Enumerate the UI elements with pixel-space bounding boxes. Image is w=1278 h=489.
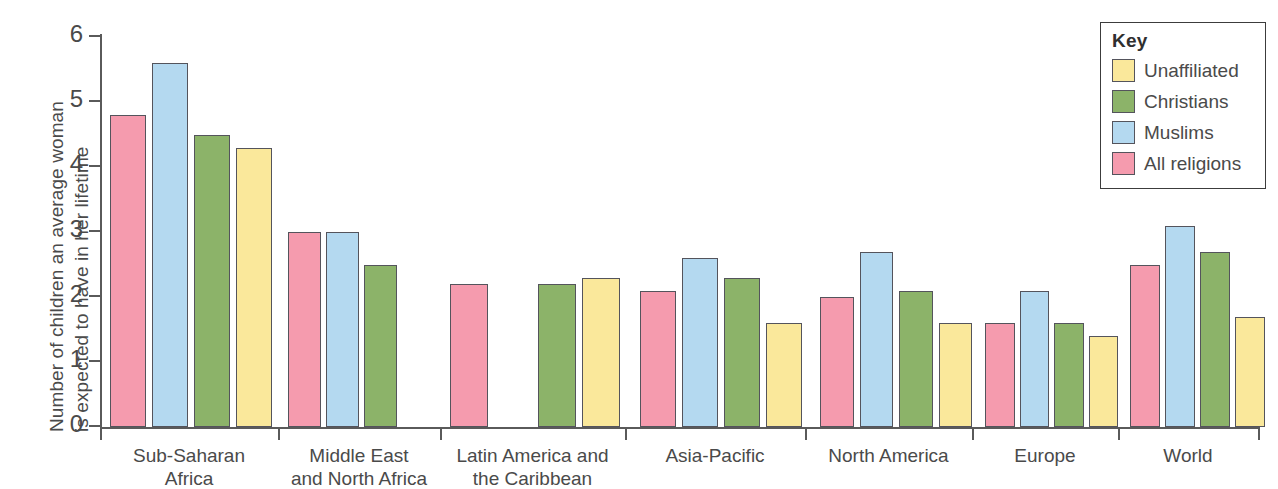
y-axis-tick-label: 1 xyxy=(70,347,83,371)
bar xyxy=(194,135,230,428)
y-axis-tick-label: 3 xyxy=(70,217,83,241)
bar xyxy=(582,278,620,428)
legend-swatch-icon xyxy=(1112,90,1135,113)
legend-item-label: Unaffiliated xyxy=(1144,60,1239,82)
bar xyxy=(724,278,760,428)
legend-item: Unaffiliated xyxy=(1112,55,1255,86)
x-axis-tick xyxy=(625,427,627,440)
legend-item-label: All religions xyxy=(1144,153,1241,175)
bar xyxy=(899,291,933,428)
y-axis-tick-label: 6 xyxy=(70,22,83,46)
x-axis-tick xyxy=(1258,427,1260,440)
x-axis-label: Asia-Pacific xyxy=(625,444,805,467)
legend-swatch-icon xyxy=(1112,152,1135,175)
x-axis-label-line: and North Africa xyxy=(278,467,440,489)
bar xyxy=(682,258,718,427)
bar xyxy=(1165,226,1195,428)
legend-swatch-icon xyxy=(1112,59,1135,82)
bar xyxy=(538,284,576,427)
x-axis-tick xyxy=(100,427,102,440)
y-axis-tick: 3 xyxy=(89,230,100,232)
x-axis-label: World xyxy=(1118,444,1258,467)
x-axis-tick xyxy=(1118,427,1120,440)
x-axis-label: North America xyxy=(805,444,972,467)
x-axis-label-line: Sub-Saharan xyxy=(100,444,278,467)
x-axis-tick xyxy=(972,427,974,440)
legend-item-label: Muslims xyxy=(1144,122,1214,144)
legend-item: All religions xyxy=(1112,148,1255,179)
bar xyxy=(1235,317,1265,428)
legend-swatch-icon xyxy=(1112,121,1135,144)
y-axis-tick: 6 xyxy=(89,35,100,37)
y-axis-tick-label: 5 xyxy=(70,87,83,111)
y-axis-tick: 1 xyxy=(89,360,100,362)
bar xyxy=(1020,291,1050,428)
legend-items: UnaffiliatedChristiansMuslimsAll religio… xyxy=(1112,55,1255,179)
y-axis-title-line1: Number of children an average woman xyxy=(46,101,67,432)
bar xyxy=(640,291,676,428)
bar xyxy=(236,148,272,428)
y-axis-tick-label: 0 xyxy=(70,412,83,436)
x-axis-tick xyxy=(278,427,280,440)
y-axis-tick: 5 xyxy=(89,100,100,102)
x-axis-tick xyxy=(440,427,442,440)
bar xyxy=(326,232,359,427)
bar xyxy=(110,115,146,427)
y-axis-tick-label: 2 xyxy=(70,282,83,306)
bar xyxy=(766,323,802,427)
bar-group xyxy=(450,37,626,427)
y-axis-tick: 2 xyxy=(89,295,100,297)
x-axis-label: Europe xyxy=(972,444,1118,467)
x-axis-line xyxy=(100,427,1260,429)
bar-group xyxy=(640,37,808,427)
x-axis-tick xyxy=(805,427,807,440)
x-axis-label: Sub-SaharanAfrica xyxy=(100,444,278,489)
legend: Key UnaffiliatedChristiansMuslimsAll rel… xyxy=(1100,22,1266,189)
bar-group xyxy=(820,37,978,427)
legend-title: Key xyxy=(1112,30,1255,52)
x-axis-label-line: the Caribbean xyxy=(440,467,625,489)
bar xyxy=(985,323,1015,427)
bar xyxy=(1089,336,1119,427)
bar xyxy=(1200,252,1230,428)
x-axis-label-line: Europe xyxy=(972,444,1118,467)
y-axis-title: Number of children an average woman is e… xyxy=(0,0,62,440)
x-axis-label: Middle Eastand North Africa xyxy=(278,444,440,489)
bar xyxy=(152,63,188,427)
x-axis-label-line: Latin America and xyxy=(440,444,625,467)
x-axis-label-line: North America xyxy=(805,444,972,467)
bar xyxy=(820,297,854,427)
x-axis-label-line: Middle East xyxy=(278,444,440,467)
y-axis-tick-label: 4 xyxy=(70,152,83,176)
bar-group xyxy=(288,37,440,427)
bar-chart: Number of children an average woman is e… xyxy=(0,0,1278,489)
bar xyxy=(939,323,973,427)
bar-group xyxy=(110,37,278,427)
y-axis-tick: 4 xyxy=(89,165,100,167)
bar xyxy=(288,232,321,427)
legend-item: Christians xyxy=(1112,86,1255,117)
y-axis-tick: 0 xyxy=(89,425,100,427)
x-axis-label-line: Africa xyxy=(100,467,278,489)
bar xyxy=(1130,265,1160,428)
bar xyxy=(1054,323,1084,427)
x-axis-label: Latin America andthe Caribbean xyxy=(440,444,625,489)
x-axis-label-line: Asia-Pacific xyxy=(625,444,805,467)
bar xyxy=(364,265,397,428)
bar xyxy=(450,284,488,427)
plot-area: 0123456 xyxy=(100,37,1258,427)
bar xyxy=(860,252,894,428)
legend-item-label: Christians xyxy=(1144,91,1228,113)
x-axis-label-line: World xyxy=(1118,444,1258,467)
legend-item: Muslims xyxy=(1112,117,1255,148)
